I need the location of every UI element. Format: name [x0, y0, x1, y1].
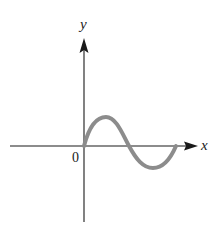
sine-curve [84, 117, 176, 168]
origin-label: 0 [72, 150, 79, 166]
x-axis-label: x [201, 137, 208, 154]
graph-canvas [0, 0, 216, 228]
x-axis-arrow-icon [184, 142, 198, 151]
y-axis-label: y [80, 16, 87, 33]
